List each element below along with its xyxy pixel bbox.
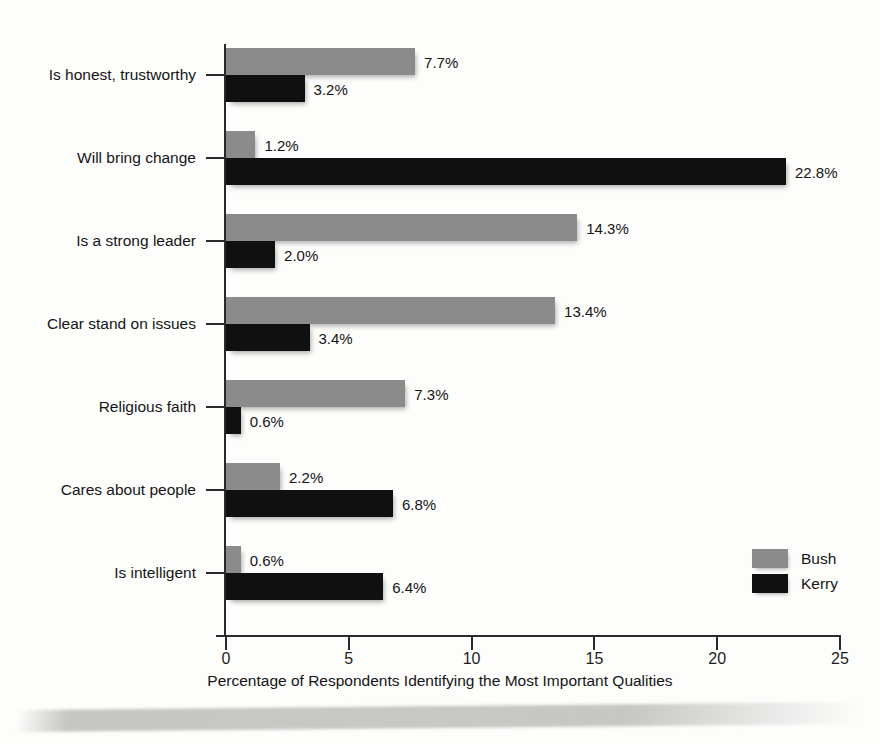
bar-bush [226, 546, 241, 573]
y-axis-tick [206, 489, 225, 491]
bar-bush [226, 131, 255, 158]
bar-value-label: 6.8% [402, 495, 436, 512]
legend-item-kerry: Kerry [752, 571, 838, 596]
bar-bush [226, 463, 280, 490]
bar-value-label: 3.2% [314, 80, 348, 97]
x-axis-tick [716, 637, 718, 650]
y-axis-category-label: Is a strong leader [76, 232, 196, 250]
bar-bush [226, 297, 555, 324]
bar-value-label: 2.2% [289, 468, 323, 485]
legend-label-kerry: Kerry [801, 575, 838, 593]
bar-chart-plot: Is honest, trustworthy7.7%3.2%Will bring… [0, 0, 880, 745]
y-axis-category-label: Clear stand on issues [47, 315, 196, 333]
x-axis-tick-label: 0 [222, 650, 231, 668]
y-axis-category-label: Will bring change [77, 149, 196, 167]
y-axis-category-label: Is intelligent [114, 564, 196, 582]
y-axis-tick [206, 323, 225, 325]
bar-kerry [226, 75, 305, 102]
bar-kerry [226, 573, 383, 600]
bar-kerry [226, 490, 393, 517]
bar-value-label: 1.2% [264, 136, 298, 153]
x-axis-tick [348, 637, 350, 650]
chart-page: Is honest, trustworthy7.7%3.2%Will bring… [0, 0, 880, 745]
bar-value-label: 2.0% [284, 246, 318, 263]
y-axis-category-label: Religious faith [99, 398, 196, 416]
bar-value-label: 6.4% [392, 578, 426, 595]
x-axis-line [216, 635, 841, 637]
bar-kerry [226, 158, 786, 185]
legend-label-bush: Bush [801, 550, 836, 568]
y-axis-category-label: Cares about people [61, 481, 196, 499]
chart-legend: Bush Kerry [752, 546, 838, 596]
bar-kerry [226, 324, 310, 351]
bar-value-label: 7.3% [414, 385, 448, 402]
y-axis-tick [206, 240, 225, 242]
y-axis-tick [206, 406, 225, 408]
bar-bush [226, 214, 577, 241]
x-axis-tick [471, 637, 473, 650]
y-axis-tick [206, 572, 225, 574]
x-axis-title: Percentage of Respondents Identifying th… [0, 672, 880, 690]
bar-value-label: 22.8% [795, 163, 838, 180]
bar-value-label: 0.6% [250, 551, 284, 568]
bar-kerry [226, 241, 275, 268]
x-axis-tick-label: 25 [831, 650, 849, 668]
x-axis-tick-label: 15 [585, 650, 603, 668]
x-axis-tick [593, 637, 595, 650]
bar-value-label: 0.6% [250, 412, 284, 429]
bar-kerry [226, 407, 241, 434]
y-axis-tick [206, 157, 225, 159]
bar-value-label: 13.4% [564, 302, 607, 319]
x-axis-tick [839, 637, 841, 650]
legend-swatch-kerry [752, 574, 788, 593]
bar-bush [226, 380, 405, 407]
x-axis-tick [225, 637, 227, 650]
y-axis-category-label: Is honest, trustworthy [49, 66, 196, 84]
x-axis-tick-label: 20 [708, 650, 726, 668]
bar-value-label: 14.3% [586, 219, 629, 236]
legend-item-bush: Bush [752, 546, 838, 571]
legend-swatch-bush [752, 549, 788, 568]
bar-value-label: 3.4% [319, 329, 353, 346]
x-axis-tick-label: 10 [463, 650, 481, 668]
y-axis-tick [206, 74, 225, 76]
bar-bush [226, 48, 415, 75]
bar-value-label: 7.7% [424, 53, 458, 70]
x-axis-tick-label: 5 [344, 650, 353, 668]
